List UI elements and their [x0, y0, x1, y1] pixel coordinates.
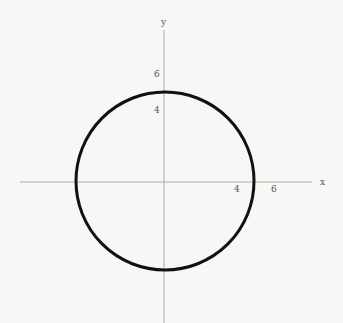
circle-plot: x y 4 6 6 4 — [0, 0, 343, 323]
y-tick-4: 4 — [154, 105, 160, 115]
circle-curve — [76, 92, 254, 270]
y-axis-label: y — [160, 17, 167, 27]
x-tick-4: 4 — [234, 184, 240, 194]
y-tick-6: 6 — [154, 69, 160, 79]
x-axis-label: x — [320, 177, 325, 187]
x-tick-6: 6 — [271, 184, 277, 194]
